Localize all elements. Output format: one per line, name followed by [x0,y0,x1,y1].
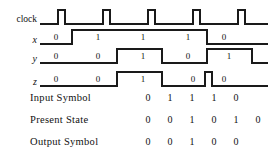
level-label-z-2: 1 [137,75,149,84]
table-cell-output-symbol-3: 0 [208,131,220,153]
table-cell-input-symbol-0: 0 [142,87,154,109]
table-cell-output-symbol-4: 0 [230,131,242,153]
table-cell-present-state-5: 0 [252,109,264,131]
table-cell-output-symbol-2: 1 [186,131,198,153]
symbol-table: Input Symbol01110Present State001010Outp… [0,92,274,166]
signal-label-y: y [0,54,37,64]
table-cell-input-symbol-2: 1 [186,87,198,109]
table-cell-input-symbol-1: 1 [164,87,176,109]
signal-label-z: z [0,77,37,87]
level-label-x-3: 1 [182,33,194,42]
level-label-x-0: 0 [50,33,62,42]
table-cell-present-state-0: 0 [142,109,154,131]
table-cell-present-state-1: 0 [164,109,176,131]
level-label-z-4: 0 [218,75,230,84]
table-row-label-output-symbol: Output Symbol [30,131,138,153]
level-label-z-1: 0 [92,75,104,84]
level-label-x-4: 0 [218,33,230,42]
waveform-clock [40,10,268,24]
level-label-x-2: 1 [137,33,149,42]
table-cell-present-state-4: 1 [230,109,242,131]
signal-label-x: x [0,35,37,45]
table-cell-output-symbol-1: 0 [164,131,176,153]
table-cell-present-state-2: 1 [186,109,198,131]
timing-diagram-figure: clockxyz 011100010100100 Input Symbol011… [0,0,274,166]
table-cell-output-symbol-0: 0 [142,131,154,153]
table-row-label-input-symbol: Input Symbol [30,87,138,109]
table-row: Input Symbol01110 [0,87,274,109]
level-label-y-0: 0 [50,52,62,61]
table-row: Present State001010 [0,109,274,131]
level-label-y-1: 0 [92,52,104,61]
signal-label-clock: clock [0,15,37,25]
table-row-label-present-state: Present State [30,109,138,131]
waveform-area: clockxyz 011100010100100 [0,0,274,92]
table-cell-present-state-3: 0 [208,109,220,131]
level-label-z-0: 0 [50,75,62,84]
level-label-x-1: 1 [92,33,104,42]
table-cell-input-symbol-3: 1 [208,87,220,109]
table-row: Output Symbol00100 [0,131,274,153]
waveform-z [40,72,268,86]
level-label-y-3: 0 [182,52,194,61]
level-label-y-4: 1 [223,52,235,61]
table-cell-input-symbol-4: 0 [230,87,242,109]
level-label-z-3: 0 [187,75,199,84]
level-label-y-2: 1 [137,52,149,61]
waveform-x [40,30,268,44]
